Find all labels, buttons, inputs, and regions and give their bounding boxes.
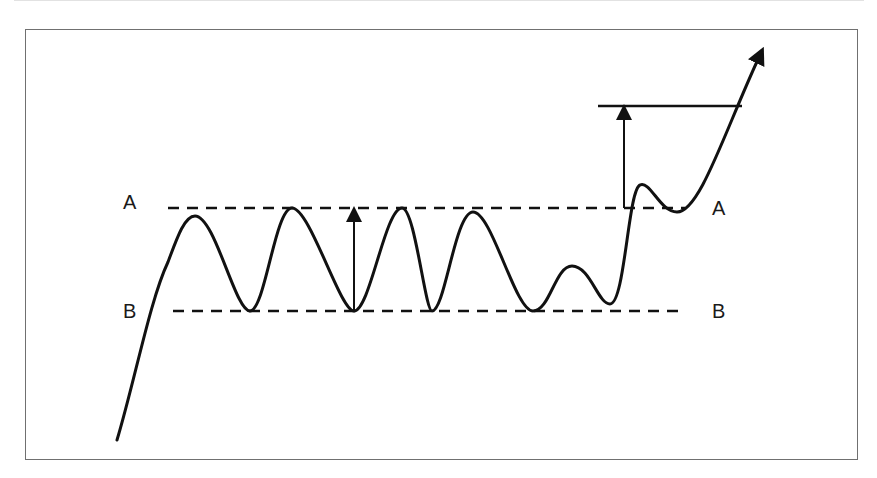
price-path [117,55,760,440]
pattern-diagram [0,0,877,478]
label-b-left: B [123,301,136,321]
label-b-right: B [712,301,725,321]
label-a-left: A [123,192,136,212]
label-a-right: A [712,198,725,218]
